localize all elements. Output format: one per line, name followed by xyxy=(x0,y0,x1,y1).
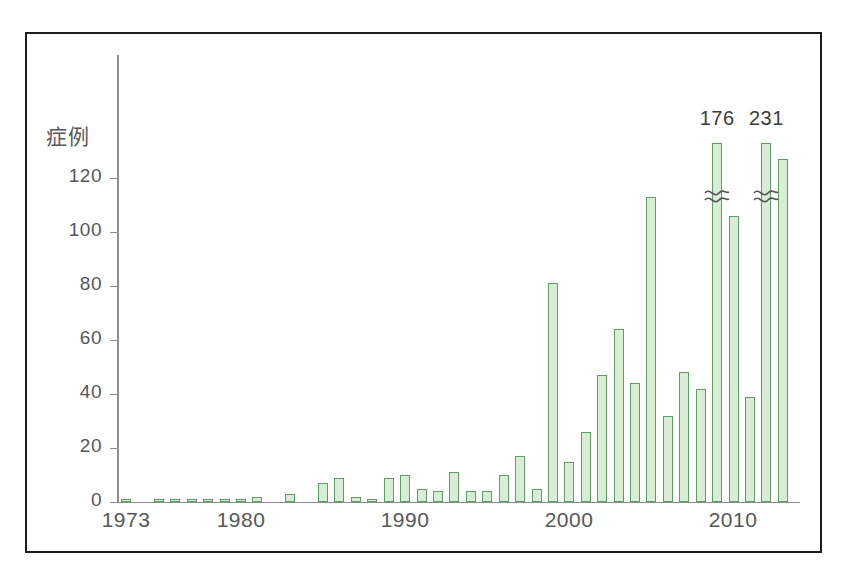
bar-1979 xyxy=(220,499,230,502)
bar-1977 xyxy=(187,499,197,502)
bar-1975 xyxy=(154,499,164,502)
bar-2005 xyxy=(646,197,656,502)
x-tick-label-2000: 2000 xyxy=(534,508,604,532)
bar-1990 xyxy=(400,475,410,502)
bar-1983 xyxy=(285,494,295,502)
bar-1981 xyxy=(252,497,262,502)
bar-1996 xyxy=(499,475,509,502)
y-tick-label-120: 120 xyxy=(50,165,102,187)
bar-1997 xyxy=(515,456,525,502)
y-tick-label-80: 80 xyxy=(50,273,102,295)
bar-value-label-2009: 176 xyxy=(689,107,745,130)
y-axis-title: 症例 xyxy=(46,120,90,150)
bar-2002 xyxy=(597,375,607,502)
bar-1999 xyxy=(548,283,558,502)
bar-2000 xyxy=(564,462,574,503)
y-tick-80 xyxy=(110,286,118,287)
bar-1986 xyxy=(334,478,344,502)
x-tick-label-2010: 2010 xyxy=(698,508,768,532)
bar-2007 xyxy=(679,372,689,502)
bar-1973 xyxy=(121,499,131,502)
bar-1976 xyxy=(170,499,180,502)
bar-2004 xyxy=(630,383,640,502)
bar-value-label-2012: 231 xyxy=(738,107,794,130)
bar-1991 xyxy=(417,489,427,503)
bar-1980 xyxy=(236,499,246,502)
y-tick-0 xyxy=(110,502,118,503)
bar-1992 xyxy=(433,491,443,502)
bar-1978 xyxy=(203,499,213,502)
y-tick-120 xyxy=(110,178,118,179)
bar-2011 xyxy=(745,397,755,502)
axis-break-mark-2012 xyxy=(751,185,781,207)
y-tick-60 xyxy=(110,340,118,341)
bar-2001 xyxy=(581,432,591,502)
bar-1985 xyxy=(318,483,328,502)
bar-1989 xyxy=(384,478,394,502)
bar-2010 xyxy=(729,216,739,502)
bar-1987 xyxy=(351,497,361,502)
bar-1995 xyxy=(482,491,492,502)
bar-2006 xyxy=(663,416,673,502)
y-tick-label-60: 60 xyxy=(50,327,102,349)
axis-break-mark-2009 xyxy=(702,185,732,207)
y-tick-100 xyxy=(110,232,118,233)
bar-chart-plot-area: 症例 0 20 40 60 80 100 120 1973 1980 1990 … xyxy=(0,0,850,580)
bar-1993 xyxy=(449,472,459,502)
bar-2008 xyxy=(696,389,706,502)
x-tick-label-1990: 1990 xyxy=(370,508,440,532)
bar-1988 xyxy=(367,499,377,502)
bar-1994 xyxy=(466,491,476,502)
y-axis-line xyxy=(117,55,119,503)
y-tick-label-20: 20 xyxy=(50,435,102,457)
bar-2003 xyxy=(614,329,624,502)
bar-1998 xyxy=(532,489,542,503)
y-tick-label-40: 40 xyxy=(50,381,102,403)
x-tick-label-1980: 1980 xyxy=(206,508,276,532)
bar-2013 xyxy=(778,159,788,502)
x-tick-label-1973: 1973 xyxy=(91,508,161,532)
y-tick-20 xyxy=(110,448,118,449)
y-tick-40 xyxy=(110,394,118,395)
y-tick-label-100: 100 xyxy=(50,219,102,241)
